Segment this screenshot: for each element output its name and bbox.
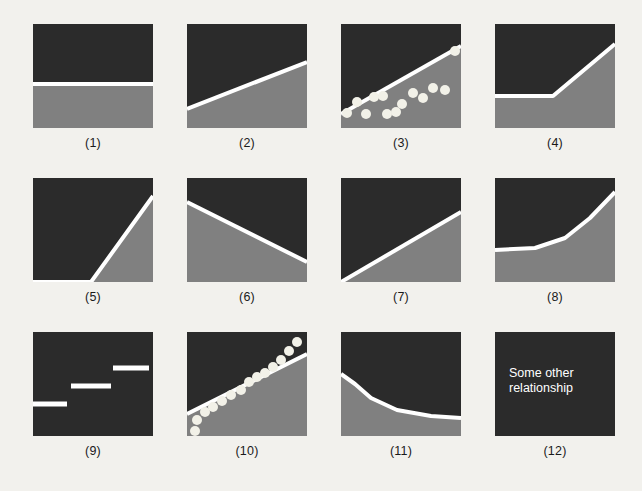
- scatter-point-10: [418, 93, 428, 103]
- scatter-point-10: [260, 368, 270, 378]
- panel-graphic-4: [495, 24, 615, 128]
- panel-cell-7: (7): [341, 178, 461, 282]
- panel-graphic-5: [33, 178, 153, 282]
- lower-region: [187, 202, 307, 282]
- scatter-point-14: [292, 337, 302, 347]
- lower-region: [495, 192, 615, 282]
- panel-cell-11: (11): [341, 332, 461, 436]
- panel-caption-6: (6): [187, 290, 307, 304]
- scatter-point-9: [408, 88, 418, 98]
- panel-cell-3: (3): [341, 24, 461, 128]
- scatter-point-5: [217, 396, 227, 406]
- panel-4-flat-then-rising: [495, 24, 615, 128]
- lower-region: [341, 374, 461, 436]
- panel-graphic-7: [341, 178, 461, 282]
- panel-graphic-6: [187, 178, 307, 282]
- panel-graphic-10: [187, 332, 307, 436]
- lower-region: [187, 62, 307, 128]
- panel-6-negative-linear: [187, 178, 307, 282]
- scatter-point-11: [268, 362, 278, 372]
- scatter-point-8: [397, 99, 407, 109]
- scatter-point-13: [284, 346, 294, 356]
- panel-cell-1: (1): [33, 24, 153, 128]
- panel-caption-3: (3): [341, 136, 461, 150]
- panel-caption-2: (2): [187, 136, 307, 150]
- panel-caption-11: (11): [341, 444, 461, 458]
- scatter-point-6: [382, 109, 392, 119]
- scatter-point-4: [369, 92, 379, 102]
- lower-region: [33, 84, 153, 128]
- scatter-point-4: [208, 402, 218, 412]
- lower-region: [187, 354, 307, 436]
- panel-graphic-2: [187, 24, 307, 128]
- panel-cell-10: (10): [187, 332, 307, 436]
- panel-caption-4: (4): [495, 136, 615, 150]
- panel-12-text-only: Some other relationship: [495, 332, 615, 436]
- panel-7-steeper-positive-linear: [341, 178, 461, 282]
- panel-caption-7: (7): [341, 290, 461, 304]
- panel-caption-9: (9): [33, 444, 153, 458]
- scatter-point-1: [342, 108, 352, 118]
- scatter-point-7: [236, 385, 246, 395]
- panel-3-positive-linear-with-scatter: [341, 24, 461, 128]
- scatter-point-3: [361, 109, 371, 119]
- panel-9-step-function: [33, 332, 153, 436]
- panel-caption-12: (12): [495, 444, 615, 458]
- lower-region: [33, 196, 153, 282]
- panel-1-horizontal-flat-line: [33, 24, 153, 128]
- panel-cell-6: (6): [187, 178, 307, 282]
- scatter-point-5: [378, 91, 388, 101]
- panel-11-decay-curve: [341, 332, 461, 436]
- scatter-point-13: [450, 46, 460, 56]
- panel-caption-8: (8): [495, 290, 615, 304]
- panel-10-linear-fit-to-curved-data: [187, 332, 307, 436]
- panel-cell-2: (2): [187, 24, 307, 128]
- scatter-point-12: [440, 85, 450, 95]
- panel-cell-9: (9): [33, 332, 153, 436]
- scatter-point-2: [352, 97, 362, 107]
- relationship-shapes-figure: (1)(2)(3)(4)(5)(6)(7)(8)(9)(10)(11)Some …: [0, 0, 642, 491]
- scatter-point-12: [276, 355, 286, 365]
- scatter-point-1: [190, 426, 200, 436]
- panel-graphic-1: [33, 24, 153, 128]
- panel-8-exponential-increase: [495, 178, 615, 282]
- panel-graphic-9: [33, 332, 153, 436]
- scatter-point-6: [226, 390, 236, 400]
- panel-cell-5: (5): [33, 178, 153, 282]
- panel-5-flat-then-steep-rise-late: [33, 178, 153, 282]
- scatter-point-7: [391, 107, 401, 117]
- panel-caption-10: (10): [187, 444, 307, 458]
- panel-graphic-8: [495, 178, 615, 282]
- panel-caption-1: (1): [33, 136, 153, 150]
- panel-2-gentle-positive-linear: [187, 24, 307, 128]
- panel-caption-5: (5): [33, 290, 153, 304]
- panel-cell-8: (8): [495, 178, 615, 282]
- panel-cell-4: (4): [495, 24, 615, 128]
- panel-graphic-11: [341, 332, 461, 436]
- panel-text: Some other relationship: [509, 366, 605, 396]
- scatter-point-2: [192, 415, 202, 425]
- scatter-point-11: [428, 83, 438, 93]
- panel-graphic-3: [341, 24, 461, 128]
- panel-cell-12: Some other relationship(12): [495, 332, 615, 436]
